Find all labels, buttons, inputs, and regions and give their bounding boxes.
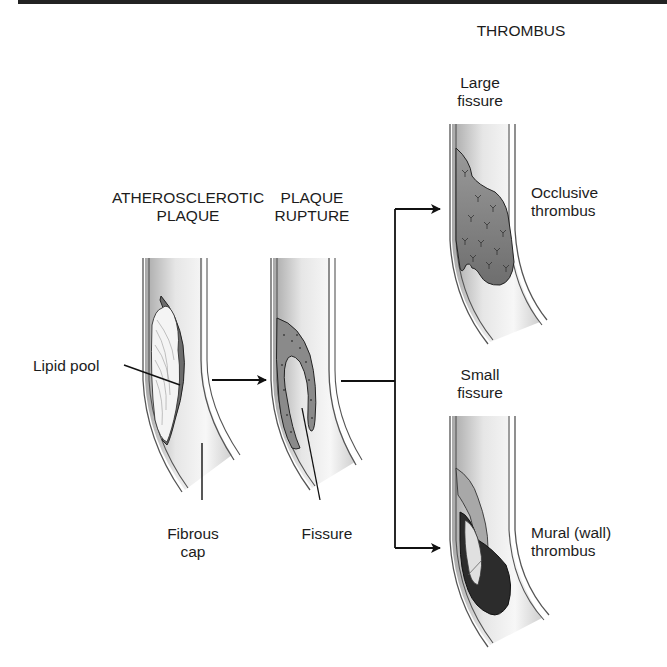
occlusive-thrombus-vessel: [450, 124, 547, 344]
atherosclerotic-vessel: [124, 258, 240, 500]
plaque-rupture-vessel: [271, 258, 362, 500]
diagram-canvas: [0, 0, 667, 667]
branch-connector: [341, 209, 440, 548]
mural-thrombus-vessel: [450, 416, 549, 647]
